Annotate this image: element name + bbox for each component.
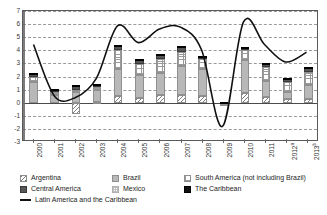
x-tickmark (181, 139, 182, 143)
argentina-swatch (20, 175, 27, 182)
x-tickmark (244, 139, 245, 143)
latin-america-total-line (33, 18, 306, 126)
legend-row-3: Latin America and the Caribbean (20, 196, 320, 207)
x-tickmark (265, 139, 266, 143)
y-tick-label: 0 (0, 99, 23, 106)
x-tick-label: 2005 (141, 143, 148, 157)
legend-label-central-america: Central America (31, 185, 81, 193)
legend-item-central-america: Central America (20, 185, 112, 193)
line-swatch (20, 199, 31, 201)
x-tickmark (96, 139, 97, 143)
x-tickmark (138, 139, 139, 143)
y-tick-label: 7 (0, 8, 23, 15)
legend-label-argentina: Argentina (31, 174, 61, 182)
y-tick-label: 3 (0, 60, 23, 67)
y-tickmark (23, 90, 25, 91)
y-tickmark (23, 50, 25, 51)
x-tick-label: 2008 (205, 143, 212, 157)
x-tickmark (286, 139, 287, 143)
legend-label-mexico: Mexico (123, 185, 145, 193)
x-tick-label: 2004 (120, 143, 127, 157)
y-tickmark (23, 116, 25, 117)
x-tick-label: 2011 (268, 143, 275, 157)
legend-item-south-america: South America (not including Brazil) (184, 174, 306, 182)
legend-item-latin-america-total: Latin America and the Caribbean (20, 196, 137, 204)
legend-item-argentina: Argentina (20, 174, 112, 182)
y-tickmark (23, 77, 25, 78)
total-line-group (23, 11, 317, 140)
x-tickmark (54, 139, 55, 143)
x-tick-label: 2010 (247, 143, 254, 157)
x-tick-label: 2007 (184, 143, 191, 157)
x-axis-ticklabels: 2000200120022003200420052006200720082009… (22, 143, 318, 173)
chart-legend: Argentina Brazil South America (not incl… (20, 174, 320, 207)
y-axis-line (23, 11, 25, 140)
x-tickmark (202, 139, 203, 143)
legend-label-south-america: South America (not including Brazil) (195, 174, 306, 182)
y-tick-label: 6 (0, 21, 23, 28)
legend-item-brazil: Brazil (112, 174, 184, 182)
x-tick-label: 2003 (99, 143, 106, 157)
x-tickmark (159, 139, 160, 143)
x-tickmark (33, 139, 34, 143)
legend-label-caribbean: The Caribbean (195, 185, 241, 193)
x-tick-label: 2001 (57, 143, 64, 157)
y-tickmark (23, 11, 25, 12)
y-tickmark (23, 24, 25, 25)
x-tick-label: 2002 (78, 143, 85, 157)
x-tickmark (75, 139, 76, 143)
y-tickmark (23, 129, 25, 130)
y-tick-label: 4 (0, 47, 23, 54)
y-tickmark (23, 37, 25, 38)
legend-label-latin-america-total: Latin America and the Caribbean (35, 196, 137, 204)
x-tick-label: 2009 (226, 143, 233, 157)
brazil-swatch (112, 175, 119, 182)
y-tick-label: -2 (0, 126, 23, 133)
y-tick-label: -3 (0, 139, 23, 146)
x-tick-label: 2012a (289, 143, 298, 160)
y-tick-label: -1 (0, 113, 23, 120)
x-tick-label: 2013b (311, 143, 320, 160)
legend-label-brazil: Brazil (123, 174, 141, 182)
x-tick-label: 2000 (36, 143, 43, 157)
y-tickmark (23, 103, 25, 104)
y-tick-label: 1 (0, 86, 23, 93)
south-america-swatch (184, 175, 191, 182)
x-tickmark (223, 139, 224, 143)
legend-item-caribbean: The Caribbean (184, 185, 241, 193)
x-tick-label: 2006 (163, 143, 170, 157)
x-tickmark (307, 139, 308, 143)
y-tickmark (23, 63, 25, 64)
chart-container: -3-2-101234567 2000200120022003200420052… (0, 0, 327, 215)
central-america-swatch (20, 186, 27, 193)
total-line-svg (23, 11, 317, 140)
caribbean-swatch (184, 186, 191, 193)
plot-area: -3-2-101234567 (22, 10, 318, 141)
legend-row-1: Argentina Brazil South America (not incl… (20, 174, 320, 185)
plot-inner (23, 11, 317, 140)
y-tick-label: 5 (0, 34, 23, 41)
mexico-swatch (112, 186, 119, 193)
legend-item-mexico: Mexico (112, 185, 184, 193)
x-tickmark (117, 139, 118, 143)
y-tick-label: 2 (0, 73, 23, 80)
legend-row-2: Central America Mexico The Caribbean (20, 185, 320, 196)
